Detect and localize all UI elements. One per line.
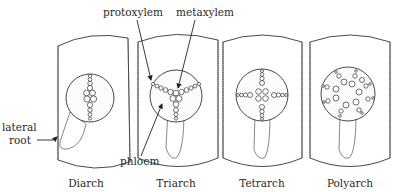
phloem-arrow xyxy=(141,104,162,156)
label-diarch: Diarch xyxy=(68,177,104,189)
label-protoxylem: protoxylem xyxy=(103,6,163,18)
protoxylem-arrow xyxy=(137,20,151,80)
label-metaxylem: metaxylem xyxy=(176,6,234,18)
panel-polyarch: Polyarch xyxy=(310,35,390,189)
stele xyxy=(321,67,375,121)
lateral-root-arrow xyxy=(37,137,57,140)
label-polyarch: Polyarch xyxy=(327,177,373,189)
label-tetrarch: Tetrarch xyxy=(239,177,285,189)
label-root: root xyxy=(9,134,32,146)
label-lateral: lateral xyxy=(2,121,37,133)
label-triarch: Triarch xyxy=(156,177,196,189)
panel-tetrarch: Tetrarch xyxy=(223,35,302,189)
label-phloem: phloem xyxy=(120,155,159,167)
root-stele-diagram: Diarch lateral root T xyxy=(0,0,402,192)
